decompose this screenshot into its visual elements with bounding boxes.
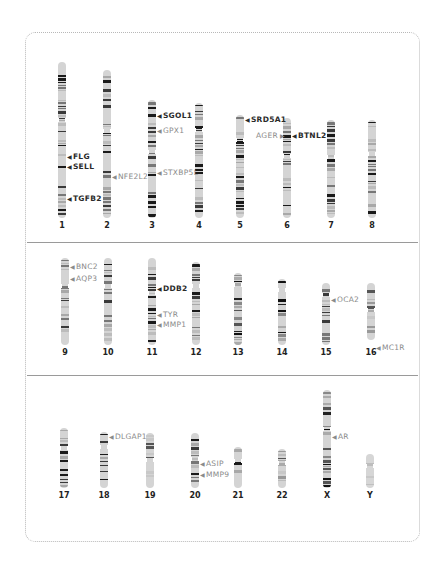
row-divider-1 [27, 242, 418, 243]
chromosome-band [103, 80, 111, 83]
gene-label-aqp3: ◀AQP3 [70, 274, 97, 283]
chromosome-band [236, 162, 244, 163]
chromosome-band [283, 141, 291, 142]
chromosome-band [61, 326, 69, 328]
gene-label-tyr: ◀TYR [157, 310, 178, 319]
chromosome-band [327, 210, 335, 212]
chromosome-band [368, 143, 376, 145]
chromosome-band [234, 342, 242, 345]
chromosome-band [58, 115, 66, 117]
chromosome-band [61, 306, 69, 308]
chromosome-band [60, 474, 68, 476]
chromosome-band [327, 143, 335, 145]
chromosome-band [60, 469, 68, 471]
chromosome-7 [327, 120, 335, 218]
chromosome-band [60, 482, 68, 483]
chromosome-band [368, 126, 376, 127]
chromosome-band [58, 186, 66, 188]
chromosome-band [100, 434, 108, 435]
arrow-left-icon: ◀ [109, 433, 114, 440]
chromosome-band [103, 201, 111, 203]
chromosome-band [191, 480, 199, 482]
chromosome-band [234, 277, 242, 280]
chromosome-band [103, 194, 111, 196]
chromosome-band [103, 124, 111, 125]
arrow-left-icon: ◀ [376, 344, 381, 351]
chromosome-band [327, 139, 335, 142]
arrow-left-icon: ◀ [200, 471, 205, 478]
centromere [323, 427, 331, 431]
chromosome-band [104, 324, 112, 327]
chromosome-band [322, 341, 330, 342]
centromere [104, 284, 112, 288]
chromosome-band [148, 329, 156, 330]
chromosome-band [103, 213, 111, 214]
chromosome-band [327, 206, 335, 209]
chromosome-band [278, 310, 286, 312]
chromosome-band [283, 205, 291, 206]
chromosome-band [58, 205, 66, 207]
chromosome-band [61, 318, 69, 320]
centromere [58, 118, 66, 122]
chromosome-band [58, 78, 66, 81]
chromosome-label-21: 21 [228, 491, 248, 500]
chromosome-label-x: X [317, 491, 337, 500]
chromosome-band [195, 210, 203, 212]
arrow-left-icon: ◀ [157, 112, 162, 119]
chromosome-band [366, 476, 374, 478]
centromere [368, 152, 376, 156]
chromosome-band [236, 198, 244, 199]
chromosome-4 [195, 103, 203, 218]
chromosome-band [234, 317, 242, 320]
chromosome-band [58, 90, 66, 91]
chromosome-band [61, 260, 69, 261]
chromosome-label-14: 14 [272, 348, 292, 357]
chromosome-band [148, 308, 156, 311]
chromosome-band [191, 443, 199, 446]
chromosome-band [327, 168, 335, 171]
chromosome-band [234, 449, 242, 452]
chromosome-band [192, 279, 200, 281]
chromosome-band [236, 117, 244, 119]
chromosome-3 [148, 100, 156, 218]
chromosome-label-9: 9 [55, 348, 75, 357]
chromosome-band [236, 191, 244, 192]
chromosome-band [323, 466, 331, 467]
chromosome-band [322, 304, 330, 305]
chromosome-band [103, 76, 111, 78]
chromosome-band [148, 340, 156, 342]
chromosome-band [58, 85, 66, 86]
chromosome-band [60, 440, 68, 442]
chromosome-band [278, 304, 286, 305]
chromosome-label-19: 19 [140, 491, 160, 500]
chromosome-band [58, 87, 66, 89]
gene-label-gpx1: ◀GPX1 [157, 126, 184, 135]
chromosome-band [236, 212, 244, 214]
chromosome-band [278, 326, 286, 328]
chromosome-band [58, 213, 66, 215]
gene-label-btnl2: ◀BTNL2 [292, 131, 327, 140]
chromosome-band [368, 183, 376, 184]
chromosome-band [103, 171, 111, 173]
chromosome-band [192, 277, 200, 278]
chromosome-band [61, 314, 69, 316]
chromosome-band [103, 94, 111, 97]
chromosome-band [192, 264, 200, 267]
chromosome-band [148, 201, 156, 204]
chromosome-band [234, 337, 242, 338]
chromosome-band [234, 306, 242, 308]
chromosome-band [148, 141, 156, 143]
chromosome-band [191, 465, 199, 468]
chromosome-band [368, 149, 376, 151]
chromosome-band [236, 205, 244, 207]
chromosome-band [191, 447, 199, 450]
chromosome-band [323, 412, 331, 415]
centromere [283, 154, 291, 158]
chromosome-band [236, 201, 244, 204]
chromosome-band [104, 264, 112, 265]
chromosome-band [234, 323, 242, 326]
centromere [278, 461, 286, 465]
chromosome-label-3: 3 [142, 221, 162, 230]
chromosome-label-12: 12 [186, 348, 206, 357]
chromosome-band [148, 145, 156, 147]
